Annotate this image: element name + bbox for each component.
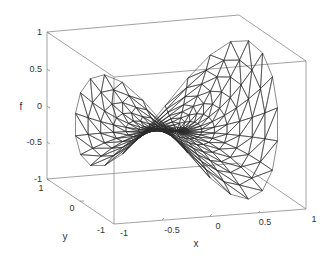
z-axis: 1 0.5 0 -0.5 -1 f: [20, 27, 50, 184]
y-axis: 1 0 -1 y: [38, 183, 105, 242]
x-tick-0.5: 0.5: [259, 217, 272, 227]
mesh-plot-figure: 1 0.5 0 -0.5 -1 f 1 0 -1 y -1 -0.5 0 0.5…: [0, 0, 329, 260]
x-axis: -1 -0.5 0 0.5 1 x: [120, 211, 317, 249]
x-tick-1: 1: [311, 214, 316, 224]
x-tick-0: 0: [215, 221, 220, 231]
z-tick-1: 1: [37, 27, 42, 37]
surface-wireframe: [76, 41, 278, 199]
y-tick-neg1: -1: [97, 225, 105, 235]
z-axis-label: f: [20, 101, 23, 112]
y-axis-label: y: [63, 231, 68, 242]
z-tick-0.5: 0.5: [29, 64, 42, 74]
x-tick-neg1: -1: [120, 228, 128, 238]
y-tick-1: 1: [38, 183, 43, 193]
surface-mesh: [76, 41, 278, 199]
x-axis-label: x: [194, 238, 199, 249]
x-tick-neg0.5: -0.5: [164, 225, 180, 235]
z-tick-0: 0: [37, 101, 42, 111]
z-tick-neg0.5: -0.5: [26, 137, 42, 147]
y-tick-0: 0: [69, 203, 74, 213]
